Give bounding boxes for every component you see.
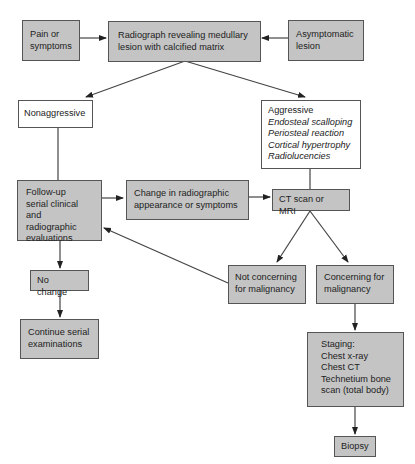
node-continue-serial-examinations: Continue serial examinations xyxy=(20,319,99,359)
node-change-in-appearance: Change in radiographic appearance or sym… xyxy=(126,180,249,220)
node-text: appearance or symptoms xyxy=(134,200,241,212)
node-text: and radiographic xyxy=(26,210,94,233)
node-radiograph: Radiograph revealing medullary lesion wi… xyxy=(108,21,261,62)
node-text: Chest x-ray xyxy=(321,351,396,363)
feature-text: Endosteal scalloping xyxy=(268,117,353,129)
node-not-concerning: Not concerning for malignancy xyxy=(228,265,306,304)
node-pain-or-symptoms: Pain or symptoms xyxy=(22,20,80,61)
node-ct-scan-or-mri: CT scan or MRI xyxy=(272,189,350,211)
node-title: Aggressive xyxy=(268,105,353,117)
node-text: Nonaggressive xyxy=(24,108,85,120)
node-text: Biopsy xyxy=(341,441,368,453)
node-text: No change xyxy=(37,275,81,298)
node-text: Change in radiographic xyxy=(134,188,241,200)
node-title: Staging: xyxy=(321,339,396,351)
node-concerning: Concerning for malignancy xyxy=(316,265,394,304)
feature-text: Cortical hypertrophy xyxy=(268,140,353,152)
node-asymptomatic-lesion: Asymptomatic lesion xyxy=(288,20,364,61)
node-text: Asymptomatic xyxy=(296,29,356,41)
node-staging: Staging: Chest x-ray Chest CT Technetium… xyxy=(307,332,404,407)
node-text: CT scan or MRI xyxy=(279,194,342,217)
node-text: Not concerning xyxy=(235,272,298,284)
node-text: malignancy xyxy=(324,284,386,296)
node-text: serial clinical xyxy=(26,199,94,211)
node-text: for malignancy xyxy=(235,284,298,296)
node-biopsy: Biopsy xyxy=(334,436,376,457)
node-text: Radiograph revealing medullary xyxy=(118,30,253,42)
node-no-change: No change xyxy=(30,270,89,291)
feature-text: Radiolucencies xyxy=(268,151,353,163)
node-text: Pain or xyxy=(30,29,72,41)
feature-text: Periosteal reaction xyxy=(268,128,353,140)
node-text: Follow-up xyxy=(26,187,94,199)
node-text: symptoms xyxy=(30,41,72,53)
node-text: examinations xyxy=(28,339,91,351)
node-aggressive: Aggressive Endosteal scalloping Perioste… xyxy=(261,100,361,169)
node-text: Concerning for xyxy=(324,272,386,284)
node-text: evaluations xyxy=(26,233,94,245)
node-text: Chest CT xyxy=(321,362,396,374)
node-text: lesion xyxy=(296,41,356,53)
node-text: Technetium bone xyxy=(321,374,396,386)
node-text: Continue serial xyxy=(28,327,91,339)
node-nonaggressive: Nonaggressive xyxy=(18,100,93,128)
node-text: lesion with calcified matrix xyxy=(118,42,253,54)
node-follow-up: Follow-up serial clinical and radiograph… xyxy=(17,180,102,241)
node-text: scan (total body) xyxy=(321,385,396,397)
